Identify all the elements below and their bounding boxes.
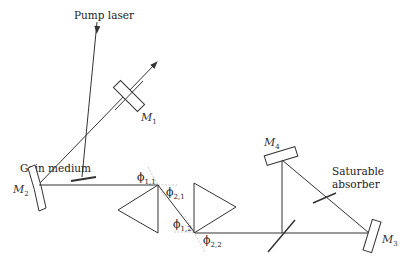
diagram-svg: Pump laser M1 Gain medium M2 ϕ1,1 ϕ2,1 ϕ… [0, 0, 404, 266]
mirror-m3 [363, 219, 381, 252]
angle-phi-2-2: ϕ2,2 [203, 234, 222, 249]
angle-phi-2-1: ϕ2,1 [166, 186, 185, 201]
mirror-m1-label: M1 [140, 111, 157, 126]
saturable-absorber-label-line1: Saturable [332, 165, 384, 177]
pump-laser-beam [82, 22, 100, 177]
mirror-m2-label: M2 [12, 183, 29, 198]
mirror-m4 [264, 147, 298, 166]
mirror-m3-label: M3 [381, 233, 398, 248]
angle-phi-1-2: ϕ1,2 [173, 218, 192, 233]
gain-medium [71, 177, 96, 181]
mirror-m4-label: M4 [263, 136, 280, 151]
pump-laser-label: Pump laser [74, 9, 135, 21]
laser-cavity-diagram: Pump laser M1 Gain medium M2 ϕ1,1 ϕ2,1 ϕ… [0, 0, 404, 266]
saturable-absorber [313, 193, 336, 203]
saturable-absorber-label-line2: absorber [332, 178, 381, 190]
prism-2 [194, 183, 236, 233]
angle-phi-1-1: ϕ1,1 [137, 171, 156, 186]
prism-1 [118, 185, 158, 233]
mirror-m1 [113, 80, 144, 111]
